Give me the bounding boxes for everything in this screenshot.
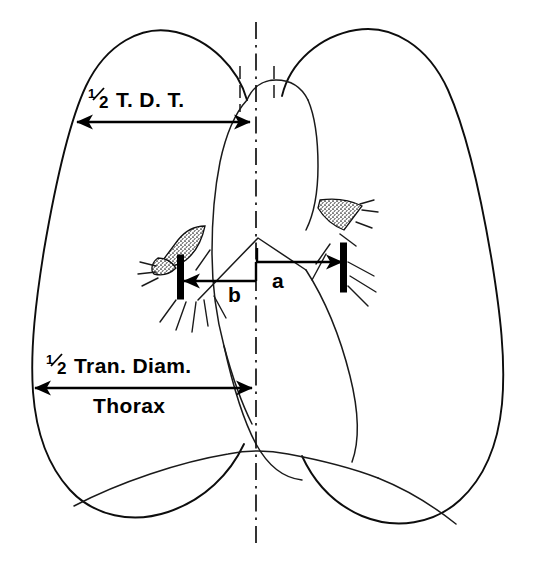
tdt-label-text: T. D. T. xyxy=(116,88,185,111)
a-label-text: a xyxy=(272,269,284,292)
right-cardiac-border-tick xyxy=(341,243,347,292)
thorax-label-line2: Thorax xyxy=(93,394,165,417)
tdt-fraction-denominator: 2 xyxy=(99,93,109,112)
thorax-label-line1: Tran. Diam. xyxy=(74,354,192,377)
b-label-text: b xyxy=(228,283,241,306)
left-cardiac-border-tick xyxy=(178,255,184,299)
thorax-fraction-denominator: 2 xyxy=(57,359,67,378)
figure-background xyxy=(0,0,536,570)
chest-diagram-canvas: 1 2 T. D. T. 1 2 Tran. Diam. Thorax a b xyxy=(0,0,536,570)
chest-diagram-figure: 1 2 T. D. T. 1 2 Tran. Diam. Thorax a b xyxy=(0,0,536,570)
